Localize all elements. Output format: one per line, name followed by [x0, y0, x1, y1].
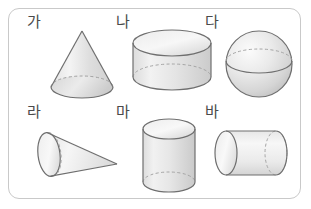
- figure-label-ma: 마: [116, 105, 130, 120]
- cylinder-near-ellipse-ba: [215, 131, 237, 175]
- cylinder-top-ellipse-na: [133, 30, 211, 56]
- figure-cell-ma: 마: [116, 105, 211, 193]
- cylinder-flat-wide-figure: [129, 29, 215, 99]
- sphere-figure: [221, 26, 297, 102]
- cylinder-horizontal-figure: [213, 125, 293, 181]
- figure-cell-ra: 라: [27, 105, 122, 193]
- figure-cell-na: 나: [116, 15, 211, 105]
- cylinder-tall-figure: [138, 118, 200, 194]
- figure-cell-da: 다: [205, 15, 297, 105]
- cylinder-top-ellipse-ma: [143, 119, 195, 139]
- cone-upright-figure: [41, 29, 123, 105]
- figure-label-na: 나: [116, 15, 130, 30]
- sphere-outline-da: [226, 31, 292, 97]
- figure-label-ra: 라: [27, 105, 41, 120]
- figure-label-da: 다: [205, 15, 219, 30]
- figure-label-ba: 바: [205, 105, 219, 120]
- figure-cell-ga: 가: [27, 15, 122, 105]
- figure-cell-ba: 바: [205, 105, 297, 193]
- figure-label-ga: 가: [27, 15, 41, 30]
- cone-sideways-figure: [38, 123, 128, 185]
- worksheet-panel: 가: [8, 8, 301, 199]
